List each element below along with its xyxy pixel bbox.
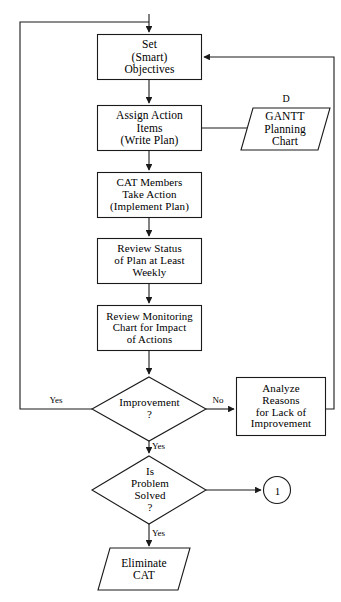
node-shape-review-status (98, 239, 202, 284)
flowchart-canvas: Set (Smart) Objectives Assign Action Ite… (0, 0, 341, 602)
node-shape-offpage-connector-1 (264, 477, 291, 504)
node-shape-cat-members-take-action (98, 173, 202, 218)
node-shape-analyze-reasons (237, 378, 326, 436)
node-shape-eliminate-cat (98, 548, 190, 590)
node-shape-set-objectives (98, 35, 202, 80)
node-shape-improvement-decision (92, 377, 206, 441)
node-shape-review-monitoring-chart (98, 306, 202, 351)
node-shape-gantt-chart (241, 108, 330, 150)
node-shape-assign-action-items (98, 106, 202, 151)
flowchart-graphics (0, 0, 341, 602)
node-shape-problem-solved-decision (92, 456, 206, 524)
